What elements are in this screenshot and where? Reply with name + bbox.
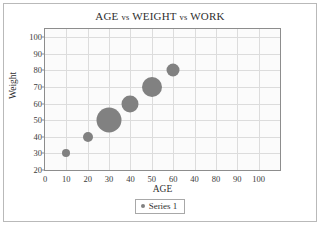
y-axis-tick-mark xyxy=(42,153,45,154)
x-axis-tick-label: 20 xyxy=(83,174,92,184)
chart-title-vs-2: vs xyxy=(180,12,188,22)
data-point-bubble[interactable] xyxy=(83,132,93,142)
y-axis-tick-mark xyxy=(42,87,45,88)
x-axis-tick-label: 60 xyxy=(169,174,178,184)
y-axis-tick-mark xyxy=(42,70,45,71)
plot-area: 0102030405060408090100203040506070809010… xyxy=(44,28,281,171)
x-axis-tick-label: 90 xyxy=(233,174,242,184)
chart-title-vs-1: vs xyxy=(121,12,129,22)
x-axis-tick-label: 40 xyxy=(190,174,199,184)
legend-label: Series 1 xyxy=(149,201,178,211)
y-axis-tick-label: 80 xyxy=(34,65,43,75)
x-axis-title: AGE xyxy=(44,184,281,194)
y-axis-tick-mark xyxy=(42,103,45,104)
gridline-horizontal xyxy=(45,153,280,154)
gridline-horizontal xyxy=(45,120,280,121)
gridline-horizontal xyxy=(45,70,280,71)
chart-title-part-work: WORK xyxy=(190,10,224,22)
data-point-bubble[interactable] xyxy=(142,77,162,97)
x-axis-tick-label: 40 xyxy=(126,174,135,184)
gridline-horizontal xyxy=(45,87,280,88)
data-point-bubble[interactable] xyxy=(97,108,122,133)
y-axis-tick-label: 20 xyxy=(34,165,43,175)
gridline-horizontal xyxy=(45,54,280,55)
x-axis-tick-label: 10 xyxy=(62,174,71,184)
chart-title-part-age: AGE xyxy=(95,10,118,22)
y-axis-tick-label: 70 xyxy=(34,82,43,92)
gridline-vertical xyxy=(237,29,238,170)
gridline-vertical xyxy=(152,29,153,170)
gridline-vertical xyxy=(88,29,89,170)
chart-title-part-weight: WEIGHT xyxy=(132,10,176,22)
data-point-bubble[interactable] xyxy=(122,95,139,112)
y-axis-tick-label: 60 xyxy=(34,99,43,109)
gridline-vertical xyxy=(259,29,260,170)
x-axis-tick-label: 80 xyxy=(212,174,221,184)
gridline-horizontal xyxy=(45,137,280,138)
y-axis-tick-mark xyxy=(42,37,45,38)
gridline-vertical xyxy=(195,29,196,170)
y-axis-tick-mark xyxy=(42,53,45,54)
x-axis-tick-label: 50 xyxy=(148,174,157,184)
data-point-bubble[interactable] xyxy=(62,149,70,157)
y-axis-tick-mark xyxy=(42,170,45,171)
chart-title: AGE vs WEIGHT vs WORK xyxy=(4,10,316,22)
gridline-vertical xyxy=(216,29,217,170)
gridline-horizontal xyxy=(45,37,280,38)
y-axis-title: Weight xyxy=(8,72,18,99)
data-point-bubble[interactable] xyxy=(167,64,180,77)
legend-marker-icon xyxy=(141,204,145,208)
gridline-vertical xyxy=(173,29,174,170)
legend-entry-series-1[interactable]: Series 1 xyxy=(135,199,186,214)
y-axis-tick-mark xyxy=(42,120,45,121)
gridline-vertical xyxy=(109,29,110,170)
y-axis-tick-label: 40 xyxy=(34,132,43,142)
y-axis-tick-label: 30 xyxy=(34,148,43,158)
gridline-horizontal xyxy=(45,104,280,105)
y-axis-tick-mark xyxy=(42,136,45,137)
y-axis-tick-label: 50 xyxy=(34,115,43,125)
x-axis-tick-label: 30 xyxy=(105,174,114,184)
x-axis-tick-label: 100 xyxy=(252,174,265,184)
y-axis-tick-label: 90 xyxy=(34,49,43,59)
chart-legend: Series 1 xyxy=(4,199,316,214)
chart-frame: AGE vs WEIGHT vs WORK Weight 01020304050… xyxy=(3,3,317,222)
x-axis-tick-label: 0 xyxy=(43,174,47,184)
y-axis-tick-label: 100 xyxy=(29,32,42,42)
